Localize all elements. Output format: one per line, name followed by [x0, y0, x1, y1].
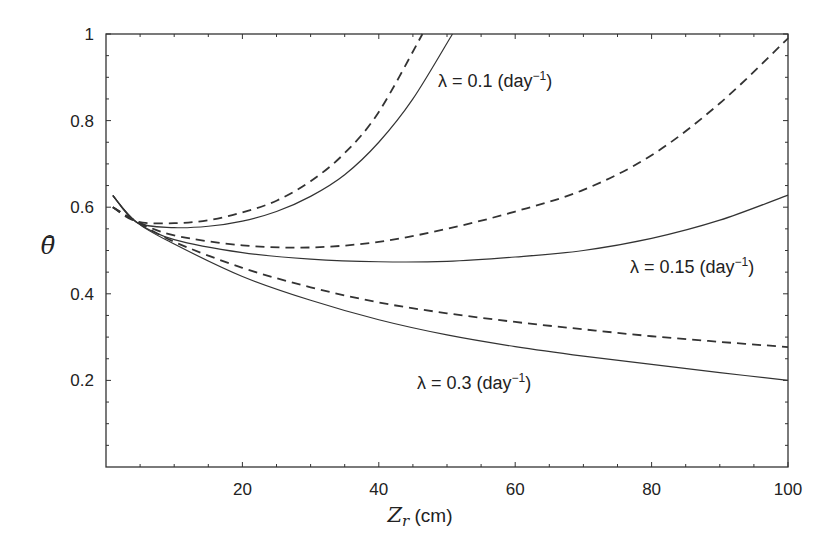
- x-tick-label: 40: [369, 480, 388, 499]
- y-tick-label: 0.2: [70, 371, 94, 390]
- x-tick-label: 20: [233, 480, 252, 499]
- plot-frame: [106, 34, 788, 467]
- series-line: [113, 34, 453, 228]
- x-axis-label: Zr (cm): [386, 503, 452, 530]
- x-tick-label: 100: [774, 480, 802, 499]
- annotations: λ = 0.1 (day−1)λ = 0.15 (day−1)λ = 0.3 (…: [417, 69, 754, 393]
- y-tick-label: 1: [85, 25, 94, 44]
- y-tick-labels: 0.20.40.60.81: [70, 25, 94, 390]
- series-line: [113, 34, 423, 223]
- x-tick-label: 60: [506, 480, 525, 499]
- axis-ticks: [106, 34, 788, 467]
- y-tick-label: 0.6: [70, 198, 94, 217]
- x-tick-label: 80: [642, 480, 661, 499]
- series-line: [113, 38, 788, 247]
- lambda-annotation: λ = 0.15 (day−1): [630, 255, 754, 277]
- y-tick-label: 0.8: [70, 112, 94, 131]
- series-line: [113, 196, 788, 381]
- x-tick-labels: 20406080100: [233, 480, 802, 499]
- y-axis-label: θ̄: [41, 232, 56, 260]
- lambda-annotation: λ = 0.1 (day−1): [438, 69, 552, 91]
- chart: 20406080100 0.20.40.60.81 Zr (cm) θ̄ λ =…: [0, 0, 839, 553]
- lambda-annotation: λ = 0.3 (day−1): [417, 371, 531, 393]
- y-tick-label: 0.4: [70, 285, 94, 304]
